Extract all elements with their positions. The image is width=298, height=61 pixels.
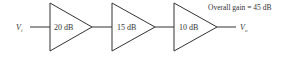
stage-1-gain: 20 dB bbox=[54, 23, 73, 32]
output-voltage-label: Vo bbox=[240, 23, 248, 33]
stage-2-gain: 15 dB bbox=[117, 23, 136, 32]
stage-3-gain: 10 dB bbox=[179, 23, 198, 32]
input-voltage-label: Vi bbox=[16, 23, 23, 33]
diagram-svg: 20 dB 15 dB 10 dB Vi Vo Overall gain = 4… bbox=[0, 0, 298, 61]
amplifier-cascade-diagram: 20 dB 15 dB 10 dB Vi Vo Overall gain = 4… bbox=[0, 0, 298, 61]
overall-gain-label: Overall gain = 45 dB bbox=[208, 3, 271, 12]
